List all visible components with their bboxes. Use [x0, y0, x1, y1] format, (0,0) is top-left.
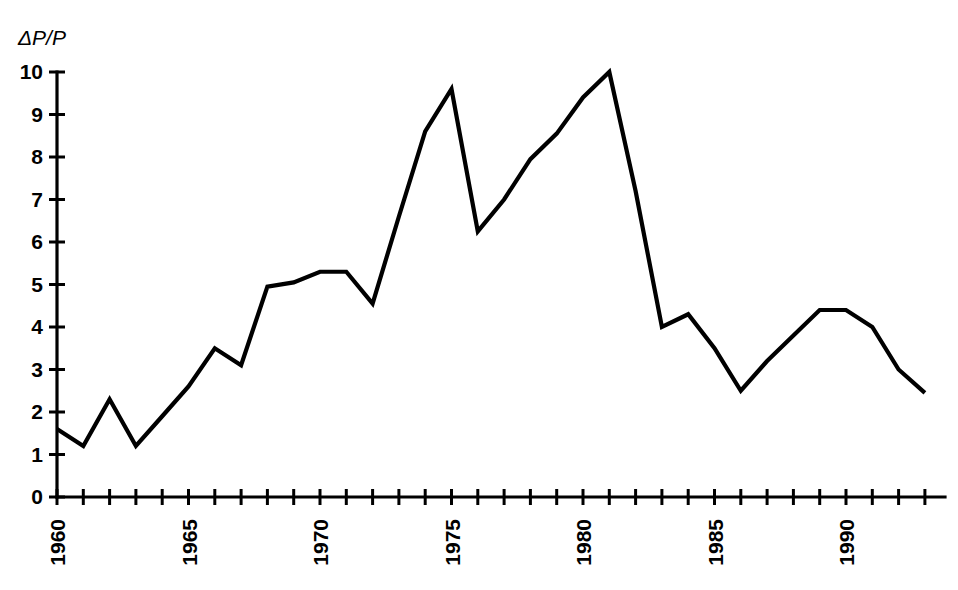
y-tick-label: 5	[31, 273, 43, 296]
x-tick-label: 1980	[572, 519, 595, 566]
x-tick-label: 1960	[46, 519, 69, 566]
y-tick-label: 2	[31, 400, 43, 423]
y-tick-label: 9	[31, 103, 43, 126]
y-tick-label: 1	[31, 443, 43, 466]
y-axis-title: ΔP/P	[17, 26, 66, 49]
data-series-line	[57, 72, 925, 446]
x-tick-label: 1990	[835, 519, 858, 566]
y-tick-label: 8	[31, 145, 43, 168]
y-tick-label: 3	[31, 358, 43, 381]
y-tick-label: 6	[31, 230, 43, 253]
line-chart: ΔP/P 012345678910 1960196519701975198019…	[0, 0, 958, 590]
y-tick-label: 7	[31, 188, 43, 211]
x-tick-label: 1970	[309, 519, 332, 566]
x-tick-label: 1985	[704, 519, 727, 566]
chart-container: ΔP/P 012345678910 1960196519701975198019…	[0, 0, 958, 590]
y-tick-label: 10	[20, 60, 43, 83]
x-tick-label: 1965	[178, 519, 201, 566]
x-axis-ticks: 1960196519701975198019851990	[46, 489, 925, 566]
x-tick-label: 1975	[441, 519, 464, 566]
y-tick-label: 0	[31, 485, 43, 508]
y-tick-label: 4	[31, 315, 43, 338]
